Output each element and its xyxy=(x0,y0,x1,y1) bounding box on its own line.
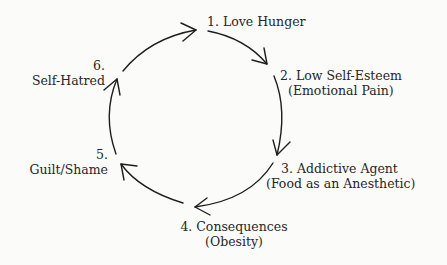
arrow-3-to-4 xyxy=(195,163,273,215)
node-6-title: Self-Hatred xyxy=(20,73,105,88)
node-love-hunger: 1. Love Hunger xyxy=(207,14,306,29)
node-5-number: 5. xyxy=(20,147,108,162)
node-guilt-shame: 5. Guilt/Shame xyxy=(20,147,108,177)
node-3-title: 3. Addictive Agent xyxy=(266,161,415,176)
node-6-number: 6. xyxy=(20,58,105,73)
node-low-self-esteem: 2. Low Self-Esteem (Emotional Pain) xyxy=(280,68,402,98)
arrow-4-to-5 xyxy=(121,164,183,203)
arrow-1-to-2 xyxy=(208,31,267,64)
node-addictive-agent: 3. Addictive Agent (Food as an Anestheti… xyxy=(266,161,415,191)
arrow-6-to-1 xyxy=(123,23,196,71)
arrow-5-to-6 xyxy=(104,79,120,154)
node-2-subtitle: (Emotional Pain) xyxy=(280,83,402,98)
node-4-subtitle: (Obesity) xyxy=(178,234,290,249)
node-1-title: 1. Love Hunger xyxy=(207,14,306,29)
node-self-hatred: 6. Self-Hatred xyxy=(20,58,105,88)
node-3-subtitle: (Food as an Anesthetic) xyxy=(266,176,415,191)
cycle-diagram: 1. Love Hunger 2. Low Self-Esteem (Emoti… xyxy=(0,0,447,265)
node-consequences: 4. Consequences (Obesity) xyxy=(178,219,290,249)
node-4-title: 4. Consequences xyxy=(178,219,290,234)
node-2-title: 2. Low Self-Esteem xyxy=(280,68,402,83)
node-5-title: Guilt/Shame xyxy=(20,162,108,177)
